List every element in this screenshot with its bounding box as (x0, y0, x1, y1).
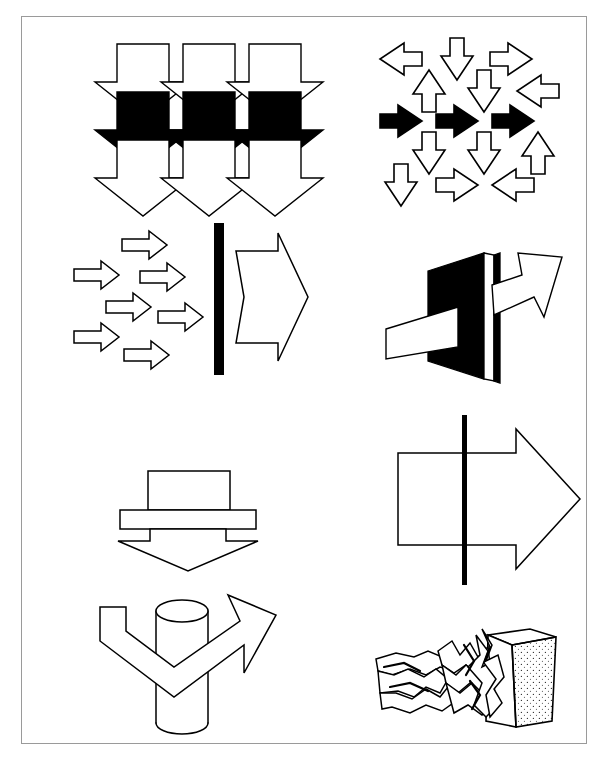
arrow-right (490, 43, 532, 75)
figure-cylinder-with-wrapping-arrow (96, 589, 301, 729)
tessellated-down-arrows-svg (67, 35, 299, 215)
arrow-left (380, 43, 422, 75)
small-arrow-right (122, 231, 167, 259)
multidirectional-arrow-tessellation-svg (374, 35, 564, 215)
arrow-black-right (492, 105, 534, 137)
small-arrow-right (74, 261, 119, 289)
arrow-down (468, 132, 500, 174)
cylinder-top-ellipse (156, 600, 208, 622)
figure-arrow-piercing-black-slab (372, 223, 572, 391)
small-arrows-barrier-svg (62, 213, 312, 388)
small-arrow-cluster (74, 231, 203, 369)
large-right-arrow (398, 429, 580, 569)
cylinder-wrap-arrow-svg (96, 589, 301, 729)
arrow-down (413, 132, 445, 174)
arrow-right (436, 169, 478, 201)
down-arrow-white (227, 140, 323, 216)
figure-crumpled-arrow-against-wall (370, 621, 565, 733)
arrow-left (492, 169, 534, 201)
small-arrow-right (124, 341, 169, 369)
slab-right-face (494, 253, 500, 383)
arrow-piercing-slab-svg (372, 223, 572, 391)
page-canvas (0, 0, 608, 767)
arrow-row-3-white (95, 140, 323, 216)
small-arrow-right (74, 323, 119, 351)
small-arrow-right (158, 303, 203, 331)
wall-front-face (512, 637, 556, 727)
figure-frame-border (21, 16, 587, 744)
figure-small-arrows-into-barrier (62, 213, 312, 388)
small-arrow-right (106, 293, 151, 321)
arrow-black-right (380, 105, 422, 137)
vertical-black-line (462, 415, 467, 585)
arrow-crossed-line-svg (390, 413, 590, 588)
arrow-head-segment (492, 253, 562, 317)
black-barrier-bar (214, 223, 224, 375)
small-arrow-right (140, 263, 185, 291)
arrow-up (522, 132, 554, 174)
arrow-black-right (436, 105, 478, 137)
arrow-row-fourth (413, 132, 554, 174)
cylinder-bottom-curve (156, 723, 208, 734)
figure-large-arrow-crossed-by-line (390, 413, 590, 588)
arrow-down (385, 164, 417, 206)
down-arrowhead (118, 529, 258, 571)
large-output-arrow (236, 233, 308, 361)
page-caption (62, 0, 322, 12)
figure-multidirectional-arrow-tessellation (374, 35, 564, 215)
horizontal-bar (120, 510, 256, 529)
arrow-row-black-right (380, 105, 534, 137)
arrow-up (413, 70, 445, 112)
arrow-down (468, 70, 500, 112)
block-bar-arrow-svg (100, 457, 300, 577)
arrow-row-bottom (385, 164, 534, 206)
arrow-left (517, 75, 559, 107)
arrow-down (441, 38, 473, 80)
upper-block (148, 471, 230, 510)
arrow-row-top (380, 38, 532, 80)
slab-edge-highlight (484, 253, 494, 381)
crumpled-arrow-wall-svg (370, 621, 565, 733)
figure-tessellated-down-arrows-grid (67, 35, 299, 215)
figure-block-on-bar-down-arrow (100, 457, 300, 577)
arrow-row-second (413, 70, 559, 112)
crumpled-arrow-shards (376, 629, 504, 717)
